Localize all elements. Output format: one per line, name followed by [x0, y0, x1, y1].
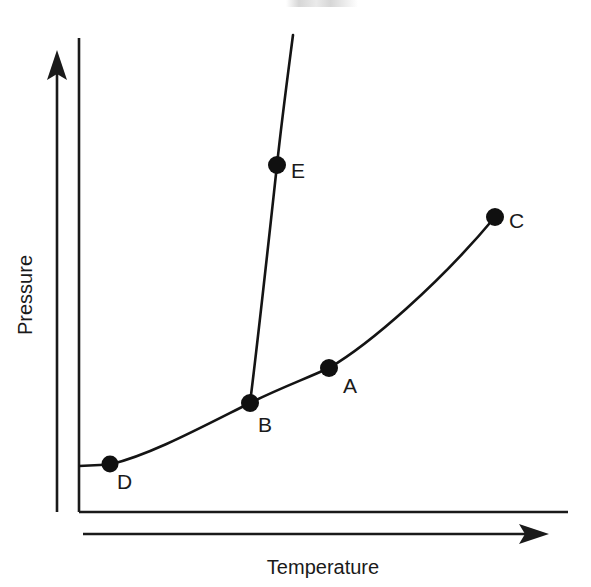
dot-d[interactable]: [102, 456, 119, 473]
point-label-c: C: [509, 209, 524, 232]
figure-background: [0, 0, 591, 587]
y-axis-title: Pressure: [14, 255, 36, 335]
point-label-d: D: [117, 470, 132, 493]
phase-diagram-figure: D B A E C Temperature Pressure: [0, 0, 591, 587]
point-label-a: A: [343, 374, 357, 397]
dot-b[interactable]: [241, 394, 259, 412]
dot-e[interactable]: [268, 156, 286, 174]
x-axis-title: Temperature: [267, 556, 379, 578]
dot-a[interactable]: [320, 359, 338, 377]
point-label-e: E: [291, 159, 305, 182]
point-label-b: B: [258, 413, 272, 436]
dot-c[interactable]: [486, 208, 504, 226]
